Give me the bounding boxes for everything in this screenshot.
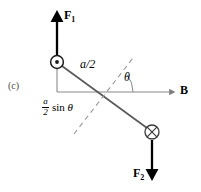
force-f2-label: F2 — [133, 167, 144, 182]
moment-arm-numerator: a — [42, 97, 49, 106]
sine-function-name: sin — [52, 101, 65, 113]
moment-arm-fraction: a 2 — [42, 97, 49, 118]
force-f1-subscript: 1 — [71, 15, 75, 24]
force-f1-label: F1 — [64, 9, 75, 24]
theta-angle-label: θ — [124, 71, 130, 83]
panel-label: (c) — [8, 81, 19, 91]
force-f2-subscript: 2 — [140, 173, 144, 182]
moment-arm-label: a 2 sin θ — [42, 97, 73, 118]
moment-arm-denominator: 2 — [42, 108, 49, 117]
physics-figure-panel-c: (c) F1 F2 B a/2 θ a 2 sin θ — [0, 0, 201, 192]
rod-line — [62, 66, 147, 128]
figure-vector-canvas — [0, 0, 201, 192]
sine-angle-symbol: θ — [68, 101, 73, 113]
half-length-label: a/2 — [80, 58, 95, 70]
moment-arm-sine-term: sin θ — [52, 102, 73, 113]
magnetic-field-label: B — [180, 84, 188, 96]
circle-dot-icon — [51, 56, 64, 69]
circle-cross-icon — [145, 125, 159, 139]
